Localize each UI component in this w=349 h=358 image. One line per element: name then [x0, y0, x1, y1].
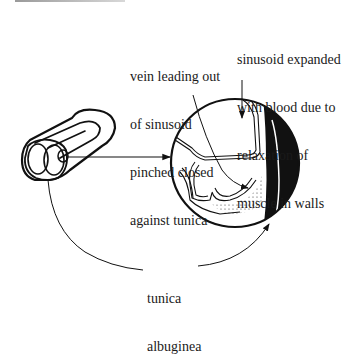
- label-line: against tunica: [130, 213, 220, 229]
- label-line: relaxation of: [237, 148, 341, 164]
- tunica-leader-line-left: [48, 180, 143, 270]
- label-line: muscle in walls: [237, 196, 341, 212]
- label-line: tunica: [147, 291, 201, 307]
- label-line: sinusoid expanded: [237, 52, 341, 68]
- label-line: albuginea: [147, 339, 201, 355]
- penis-cylinder-drawing: [22, 110, 115, 180]
- label-tunica-albuginea: tunica albuginea: [147, 259, 201, 358]
- label-line: pinched closed: [130, 165, 220, 181]
- label-line: vein leading out: [130, 69, 220, 85]
- label-line: with blood due to: [237, 100, 341, 116]
- label-vein: vein leading out of sinusoid pinched clo…: [130, 37, 220, 245]
- label-sinusoid: sinusoid expanded with blood due to rela…: [237, 20, 341, 228]
- label-line: of sinusoid: [130, 117, 220, 133]
